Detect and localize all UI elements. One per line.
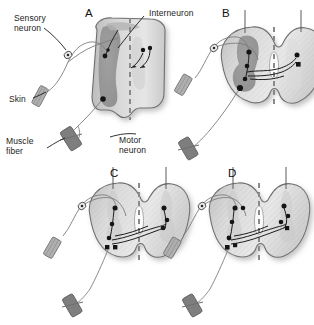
panel-a-graphic bbox=[31, 18, 165, 151]
muscle-fiber-c bbox=[62, 293, 83, 317]
panel-c-graphic bbox=[43, 167, 190, 318]
label-muscle-fiber: Muscle fiber bbox=[6, 137, 34, 156]
muscle-fiber-d bbox=[182, 293, 203, 317]
leader-muscle-fiber bbox=[47, 138, 65, 148]
leader-sensory-neuron bbox=[44, 28, 66, 50]
label-interneuron: Interneuron bbox=[149, 9, 194, 19]
skin-receptor-a bbox=[31, 85, 48, 107]
panel-d-graphic bbox=[163, 167, 310, 318]
label-skin: Skin bbox=[9, 95, 26, 105]
spinal-reflex-figure: Sensory neuron Skin Muscle fiber Interne… bbox=[0, 0, 314, 325]
panel-b-graphic bbox=[174, 10, 314, 161]
label-sensory-neuron: Sensory neuron bbox=[14, 14, 46, 33]
panel-letter-c: C bbox=[110, 167, 118, 179]
panel-letter-b: B bbox=[222, 7, 230, 19]
panel-letter-a: A bbox=[85, 7, 93, 19]
panel-letter-d: D bbox=[228, 167, 236, 179]
figure-canvas bbox=[0, 0, 314, 325]
muscle-fiber-b bbox=[178, 136, 199, 160]
skin-receptor-c bbox=[43, 237, 62, 259]
label-motor-neuron: Motor neuron bbox=[119, 136, 146, 155]
skin-receptor-b bbox=[174, 74, 193, 96]
